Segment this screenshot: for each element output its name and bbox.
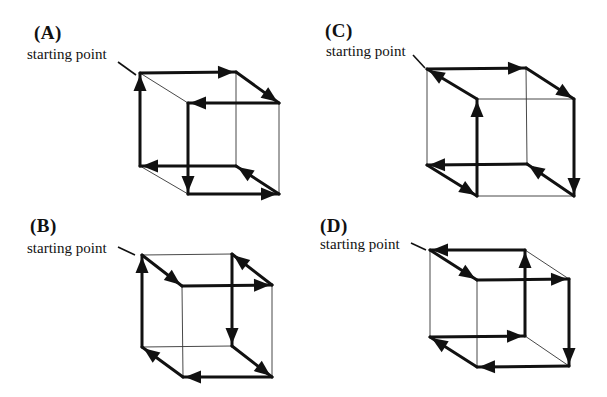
panel-label-a: (A)	[34, 22, 62, 44]
arrowhead-icon	[190, 97, 206, 110]
arrowhead-icon	[458, 181, 475, 195]
arrowhead-icon	[508, 62, 524, 75]
arrowhead-icon	[507, 330, 523, 343]
thin-cube-edge	[142, 346, 232, 347]
arrowhead-icon	[226, 328, 239, 344]
arrowhead-icon	[185, 371, 201, 384]
arrowhead-icon	[555, 84, 572, 98]
panel-label-c: (C)	[325, 20, 353, 42]
panel-label-d: (D)	[320, 215, 348, 237]
thin-cube-edge	[140, 73, 188, 103]
thin-cube-edge	[182, 286, 183, 377]
arrowhead-icon	[144, 348, 161, 363]
starting-point-label-b: starting point	[27, 240, 107, 257]
arrowhead-icon	[471, 101, 484, 117]
arrowhead-icon	[218, 66, 234, 79]
starting-point-label-c: starting point	[326, 43, 406, 60]
arrowhead-icon	[238, 167, 255, 181]
starting-point-pointer	[118, 247, 135, 255]
arrowhead-icon	[479, 360, 495, 373]
thin-cube-edge	[142, 254, 232, 255]
panel-label-b: (B)	[30, 215, 57, 237]
arrowhead-icon	[458, 265, 475, 279]
arrowhead-icon	[519, 252, 532, 268]
arrowhead-icon	[182, 176, 195, 192]
arrowhead-icon	[432, 338, 449, 352]
starting-point-pointer	[118, 62, 136, 75]
starting-point-label-d: starting point	[320, 236, 400, 253]
thin-cube-edge	[140, 166, 188, 194]
thin-cube-edge	[525, 336, 569, 366]
arrowhead-icon	[134, 75, 147, 91]
thin-cube-edge	[525, 250, 569, 279]
thin-cube-edge	[526, 68, 527, 164]
cube-panel-c	[413, 55, 581, 196]
arrowhead-icon	[551, 273, 567, 286]
arrowhead-icon	[563, 348, 576, 364]
arrowhead-icon	[429, 70, 446, 84]
cube-panel-d	[411, 243, 576, 373]
arrowhead-icon	[142, 160, 158, 173]
starting-point-pointer	[411, 243, 426, 250]
arrowhead-icon	[261, 87, 278, 102]
starting-point-pointer	[413, 55, 425, 68]
arrowhead-icon	[529, 165, 546, 179]
cube-panel-a	[118, 62, 279, 201]
starting-point-label-a: starting point	[27, 46, 107, 63]
cube-panel-b	[118, 247, 272, 384]
